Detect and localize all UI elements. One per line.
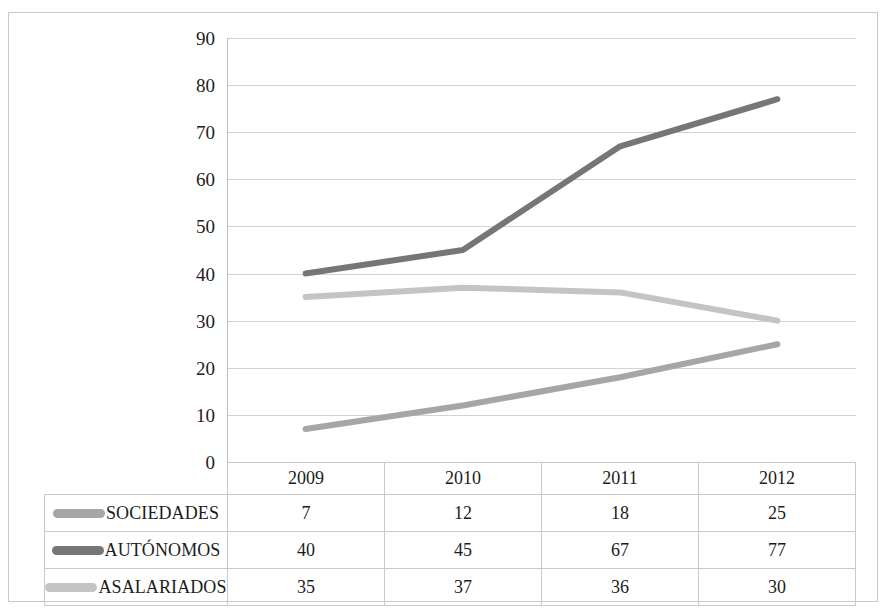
table-row: AUTÓNOMOS40456777 — [45, 532, 856, 569]
legend-label: SOCIEDADES — [106, 503, 219, 524]
table-header-2011: 2011 — [542, 463, 699, 495]
table-cell: 40 — [228, 532, 385, 569]
table-corner-cell — [45, 463, 228, 495]
series-line-sociedades — [306, 344, 778, 429]
legend-label: AUTÓNOMOS — [105, 540, 221, 561]
table-cell: 25 — [699, 495, 856, 532]
table-cell: 18 — [542, 495, 699, 532]
table-header-2010: 2010 — [385, 463, 542, 495]
table-cell: 30 — [699, 569, 856, 606]
y-tick-label-30: 30 — [196, 311, 215, 330]
table-cell: 35 — [228, 569, 385, 606]
plot-area: 9080706050403020100 — [227, 38, 856, 462]
data-table: 2009201020112012SOCIEDADES7121825AUTÓNOM… — [44, 462, 856, 606]
y-tick-label-40: 40 — [196, 264, 215, 283]
table-row: SOCIEDADES7121825 — [45, 495, 856, 532]
legend-label: ASALARIADOS — [98, 577, 226, 598]
table-cell: 37 — [385, 569, 542, 606]
series-line-asalariados — [306, 288, 778, 321]
y-tick-label-80: 80 — [196, 76, 215, 95]
table-header-2012: 2012 — [699, 463, 856, 495]
y-tick-label-90: 90 — [196, 29, 215, 48]
table-cell: 77 — [699, 532, 856, 569]
y-tick-label-50: 50 — [196, 217, 215, 236]
series-line-autnomos — [306, 99, 778, 273]
legend-swatch-icon — [52, 546, 104, 555]
table-cell: 67 — [542, 532, 699, 569]
legend-entry-sociedades: SOCIEDADES — [45, 495, 228, 532]
table-cell: 36 — [542, 569, 699, 606]
table-header-2009: 2009 — [228, 463, 385, 495]
legend-swatch-icon — [53, 509, 105, 518]
y-tick-label-10: 10 — [196, 405, 215, 424]
y-tick-label-70: 70 — [196, 123, 215, 142]
table-cell: 45 — [385, 532, 542, 569]
legend-swatch-icon — [45, 583, 97, 592]
y-tick-label-20: 20 — [196, 358, 215, 377]
legend-entry-asalariados: ASALARIADOS — [45, 569, 228, 606]
series-lines — [227, 38, 856, 462]
y-tick-label-60: 60 — [196, 170, 215, 189]
legend-entry-autnomos: AUTÓNOMOS — [45, 532, 228, 569]
chart-frame: 9080706050403020100 2009201020112012SOCI… — [8, 12, 878, 602]
table-cell: 12 — [385, 495, 542, 532]
table-row: ASALARIADOS35373630 — [45, 569, 856, 606]
table-cell: 7 — [228, 495, 385, 532]
table-header-row: 2009201020112012 — [45, 463, 856, 495]
